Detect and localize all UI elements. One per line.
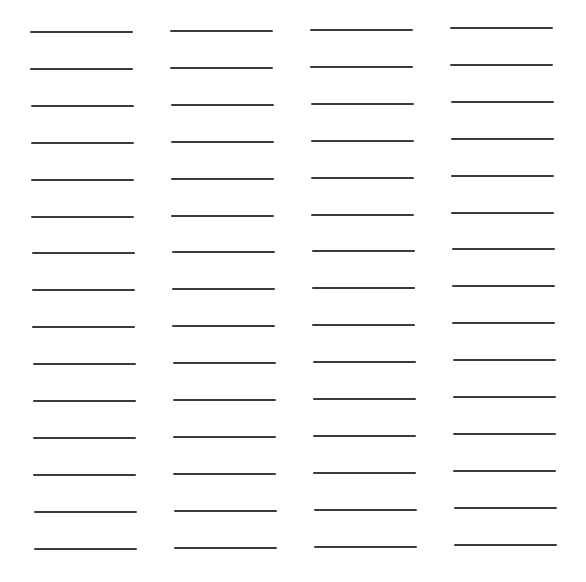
- blank-line: [31, 142, 134, 144]
- blank-line: [32, 326, 135, 328]
- blank-line: [33, 400, 136, 402]
- blank-line: [33, 363, 136, 365]
- blank-line: [452, 285, 555, 287]
- blank-line: [32, 289, 135, 291]
- blank-line: [311, 177, 414, 179]
- blank-line: [170, 67, 273, 69]
- blank-line: [452, 248, 555, 250]
- blank-line: [451, 138, 554, 140]
- blank-line: [450, 64, 553, 66]
- blank-line: [31, 179, 134, 181]
- blank-line: [314, 509, 417, 511]
- blank-line: [454, 544, 557, 546]
- blank-line: [30, 31, 133, 33]
- blank-line: [31, 216, 134, 218]
- blank-line: [450, 27, 553, 29]
- blank-line: [171, 141, 274, 143]
- blank-line: [314, 546, 417, 548]
- blank-line: [313, 398, 416, 400]
- blank-line: [34, 548, 137, 550]
- blank-line: [311, 214, 414, 216]
- blank-line: [451, 212, 554, 214]
- blank-line: [172, 325, 275, 327]
- blank-line: [173, 436, 276, 438]
- blank-line: [453, 433, 556, 435]
- blank-line: [172, 251, 275, 253]
- blank-line: [454, 507, 557, 509]
- blank-line: [173, 362, 276, 364]
- blank-line: [313, 361, 416, 363]
- blank-line: [31, 105, 134, 107]
- blank-line: [451, 101, 554, 103]
- blank-line: [453, 470, 556, 472]
- blank-line: [312, 324, 415, 326]
- blank-line: [33, 474, 136, 476]
- blank-line: [33, 437, 136, 439]
- blank-line: [313, 472, 416, 474]
- blank-line: [173, 399, 276, 401]
- blank-line: [171, 215, 274, 217]
- blank-line: [310, 29, 413, 31]
- blank-line: [313, 435, 416, 437]
- blank-line: [453, 396, 556, 398]
- blank-lined-sheet: [0, 0, 586, 582]
- blank-line: [34, 511, 137, 513]
- blank-line: [171, 178, 274, 180]
- blank-line: [170, 30, 273, 32]
- blank-line: [310, 66, 413, 68]
- blank-line: [174, 510, 277, 512]
- blank-line: [171, 104, 274, 106]
- blank-line: [30, 68, 133, 70]
- blank-line: [312, 287, 415, 289]
- blank-line: [311, 103, 414, 105]
- blank-line: [451, 175, 554, 177]
- blank-line: [452, 322, 555, 324]
- blank-line: [32, 252, 135, 254]
- blank-line: [172, 288, 275, 290]
- blank-line: [173, 473, 276, 475]
- blank-line: [311, 140, 414, 142]
- blank-line: [312, 250, 415, 252]
- blank-line: [174, 547, 277, 549]
- blank-line: [453, 359, 556, 361]
